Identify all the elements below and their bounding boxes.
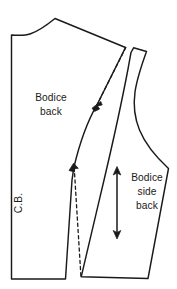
pattern-drawing-canvas: Bodice back C.B. Bodice side back xyxy=(0,0,177,289)
pattern-diagram: Bodice back C.B. Bodice side back xyxy=(0,0,177,289)
bodice-back-label-line1: Bodice xyxy=(35,92,67,103)
bodice-side-back-label-line1: Bodice xyxy=(131,172,163,183)
center-back-label: C.B. xyxy=(13,193,24,214)
bodice-side-back-label-line3: back xyxy=(136,200,159,211)
bodice-side-back-label-line2: side xyxy=(137,186,156,197)
dashed-seam-lower xyxy=(74,168,81,278)
bodice-back-label-line2: back xyxy=(40,106,63,117)
